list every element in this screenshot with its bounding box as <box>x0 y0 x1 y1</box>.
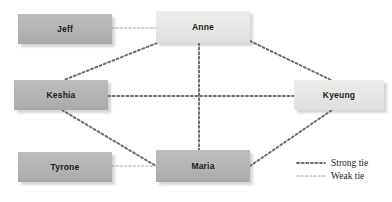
edge-anne-keshia <box>64 43 157 80</box>
node-label: Anne <box>192 22 214 32</box>
network-diagram: JeffAnneKeshiaKyeungTyroneMaria Strong t… <box>0 0 392 202</box>
node-label: Jeff <box>57 24 73 34</box>
legend: Strong tieWeak tie <box>296 156 368 182</box>
node-tyrone[interactable]: Tyrone <box>18 152 112 182</box>
node-label: Keshia <box>46 90 75 100</box>
node-label: Maria <box>191 161 214 171</box>
legend-item-weak: Weak tie <box>296 169 368 182</box>
node-label: Kyeung <box>323 90 355 100</box>
node-keshia[interactable]: Keshia <box>14 80 108 110</box>
weak-tie-swatch-icon <box>296 170 326 181</box>
node-maria[interactable]: Maria <box>156 150 250 182</box>
node-kyeung[interactable]: Kyeung <box>294 80 384 110</box>
strong-tie-swatch-icon <box>296 157 326 168</box>
node-anne[interactable]: Anne <box>156 11 250 43</box>
node-label: Tyrone <box>51 162 80 172</box>
edge-anne-kyeung <box>250 41 331 80</box>
legend-label: Weak tie <box>331 171 364 181</box>
node-jeff[interactable]: Jeff <box>18 14 112 44</box>
legend-label: Strong tie <box>331 158 368 168</box>
legend-item-strong: Strong tie <box>296 156 368 169</box>
